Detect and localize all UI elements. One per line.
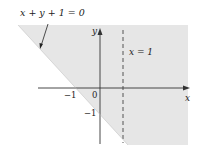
inequality-region-diagram: x + y + 1 = 0 x = 1 x y 0 −1 −1: [0, 0, 201, 154]
x-tick-label: −1: [64, 90, 77, 100]
origin-label: 0: [92, 90, 97, 100]
y-tick-label: −1: [84, 108, 97, 118]
shaded-region: [18, 25, 188, 145]
y-axis-label: y: [91, 26, 98, 36]
equation-label: x + y + 1 = 0: [20, 7, 85, 18]
vertical-line-label: x = 1: [129, 47, 153, 57]
x-axis-label: x: [185, 93, 190, 103]
